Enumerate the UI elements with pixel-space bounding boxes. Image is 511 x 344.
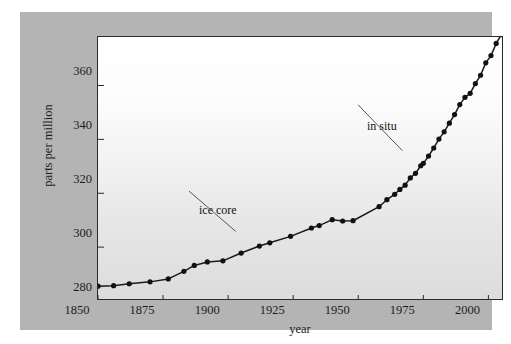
data-point-marker — [340, 218, 345, 223]
x-axis-tick-label: 1875 — [130, 304, 155, 317]
data-point-marker — [330, 217, 335, 222]
data-point-marker — [309, 225, 314, 230]
x-axis-tick-label: 1975 — [390, 304, 415, 317]
data-point-marker — [488, 53, 493, 58]
data-point-marker — [127, 281, 132, 286]
data-point-marker — [147, 279, 152, 284]
data-point-marker — [436, 137, 441, 142]
data-point-marker — [468, 91, 473, 96]
data-point-marker — [457, 102, 462, 107]
y-axis-tick-label: 280 — [73, 281, 92, 294]
data-point-marker — [288, 234, 293, 239]
data-point-marker — [478, 73, 483, 78]
data-point-marker — [205, 259, 210, 264]
annotation-label-in-situ: in situ — [367, 120, 397, 132]
figure-root: 280300320340360 parts per million year 1… — [0, 0, 511, 344]
data-point-marker — [403, 183, 408, 188]
data-point-marker — [181, 269, 186, 274]
x-axis-tick-label: 1925 — [260, 304, 285, 317]
data-point-marker — [239, 250, 244, 255]
y-axis-tick-label: 340 — [73, 119, 92, 132]
data-point-marker — [408, 175, 413, 180]
figure-panel: 280300320340360 parts per million year 1… — [20, 12, 492, 330]
data-point-marker — [447, 121, 452, 126]
data-point-marker — [494, 41, 499, 46]
data-point-marker — [98, 284, 101, 289]
data-point-marker — [462, 95, 467, 100]
data-point-marker — [483, 60, 488, 65]
y-axis-tick-label: 300 — [73, 227, 92, 240]
data-point-marker — [267, 240, 272, 245]
y-axis-title: parts per million — [41, 71, 56, 221]
data-point-marker — [392, 192, 397, 197]
data-point-marker — [452, 112, 457, 117]
y-axis-tick-label: 360 — [73, 65, 92, 78]
x-axis-tick-label: 1950 — [325, 304, 350, 317]
x-axis-tick-label: 2000 — [455, 304, 480, 317]
x-axis-title: year — [97, 322, 503, 337]
data-point-marker — [397, 187, 402, 192]
data-point-marker — [431, 145, 436, 150]
data-line-co2 — [98, 37, 503, 286]
data-point-marker — [111, 283, 116, 288]
data-point-marker — [257, 243, 262, 248]
plot-area — [97, 36, 503, 300]
x-axis-tick-label: 1850 — [65, 304, 90, 317]
data-point-marker — [442, 129, 447, 134]
data-point-marker — [317, 223, 322, 228]
data-point-marker — [473, 81, 478, 86]
data-point-marker — [192, 263, 197, 268]
data-point-marker — [421, 161, 426, 166]
y-axis-tick-label: 320 — [73, 173, 92, 186]
data-point-marker — [376, 204, 381, 209]
data-point-marker — [350, 218, 355, 223]
data-point-marker — [166, 276, 171, 281]
plot-svg — [98, 37, 503, 300]
data-point-marker — [384, 197, 389, 202]
x-axis-tick-label: 1900 — [195, 304, 220, 317]
data-point-marker — [413, 171, 418, 176]
data-point-marker — [426, 153, 431, 158]
data-point-marker — [220, 258, 225, 263]
annotation-label-ice-core: ice core — [199, 204, 237, 216]
